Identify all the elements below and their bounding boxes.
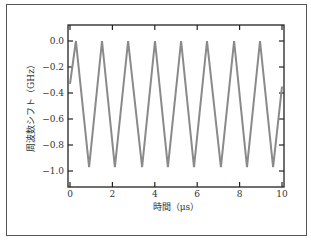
y-tick-label: −1.0 <box>42 166 64 176</box>
y-tick-label: −0.4 <box>42 88 64 98</box>
y-tick-labels: 0.0−0.2−0.4−0.6−0.8−1.0 <box>42 36 64 176</box>
line-chart: 0246810 0.0−0.2−0.4−0.6−0.8−1.0 時間（μs） 周… <box>0 0 311 243</box>
x-axis-label: 時間（μs） <box>153 202 199 212</box>
x-tick-label: 4 <box>152 189 158 199</box>
x-tick-label: 0 <box>67 189 73 199</box>
y-tick-label: 0.0 <box>50 36 65 46</box>
data-line <box>70 41 282 167</box>
y-tick-label: −0.2 <box>42 62 64 72</box>
x-tick-label: 8 <box>237 189 243 199</box>
x-tick-label: 10 <box>276 189 288 199</box>
y-tick-label: −0.6 <box>42 114 64 124</box>
x-tick-label: 2 <box>110 189 116 199</box>
x-tick-labels: 0246810 <box>67 189 288 199</box>
y-axis-label: 周波数シフト（GHz） <box>25 60 36 152</box>
x-tick-label: 6 <box>194 189 200 199</box>
y-tick-label: −0.8 <box>42 140 64 150</box>
